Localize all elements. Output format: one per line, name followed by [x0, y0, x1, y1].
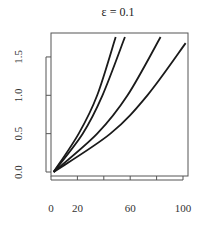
y-tick-label: 0.5	[12, 126, 24, 140]
x-axis: 02060100	[48, 176, 192, 214]
series-group	[54, 37, 186, 172]
x-tick-label: 0	[48, 202, 54, 214]
x-tick-label: 100	[175, 202, 192, 214]
y-tick-label: 1.5	[12, 50, 24, 64]
plot-frame	[51, 33, 188, 176]
series-line-curve-2	[54, 37, 125, 172]
chart: ε = 0.1 0.00.51.01.5 02060100	[0, 0, 202, 225]
y-axis: 0.00.51.01.5	[12, 50, 51, 179]
chart-title: ε = 0.1	[102, 5, 135, 19]
y-tick-label: 1.0	[12, 88, 24, 102]
x-tick-label: 20	[72, 202, 84, 214]
x-tick-label: 60	[125, 202, 137, 214]
y-tick-label: 0.0	[12, 165, 24, 179]
